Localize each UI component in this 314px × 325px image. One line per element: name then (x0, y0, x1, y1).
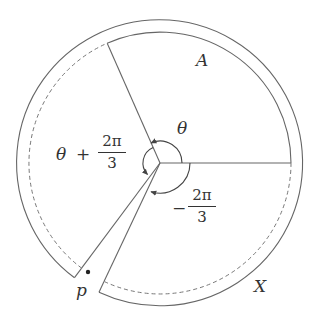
theta-plus-denominator: 3 (98, 156, 126, 171)
theta-plus-angle-arc (143, 147, 153, 174)
minus-denominator: 3 (188, 210, 216, 225)
radial-line-gap-left (82, 163, 160, 268)
fraction-bar (98, 152, 126, 153)
theta-plus-numerator: 2π (98, 134, 126, 149)
region-a-label: A (196, 52, 208, 69)
diagram-canvas (0, 0, 314, 325)
radial-line-gap-right (104, 163, 160, 281)
fraction-bar (188, 206, 216, 207)
theta-plus-var: θ (56, 146, 66, 163)
gap-edge-right (99, 281, 104, 292)
dashed-inner-arc-left (29, 43, 107, 268)
gap-edge-left (75, 268, 82, 278)
region-x-label: X (254, 278, 266, 295)
point-p-dot (86, 270, 90, 274)
minus-numerator: 2π (188, 188, 216, 203)
point-p-label: p (76, 282, 87, 299)
theta-label: θ (177, 120, 187, 137)
theta-plus-operator: + (76, 146, 90, 163)
dashed-inner-arc-right (104, 163, 291, 294)
minus-operator: − (172, 200, 186, 217)
minus-fraction: 2π 3 (188, 188, 216, 225)
theta-plus-fraction: 2π 3 (98, 134, 126, 171)
